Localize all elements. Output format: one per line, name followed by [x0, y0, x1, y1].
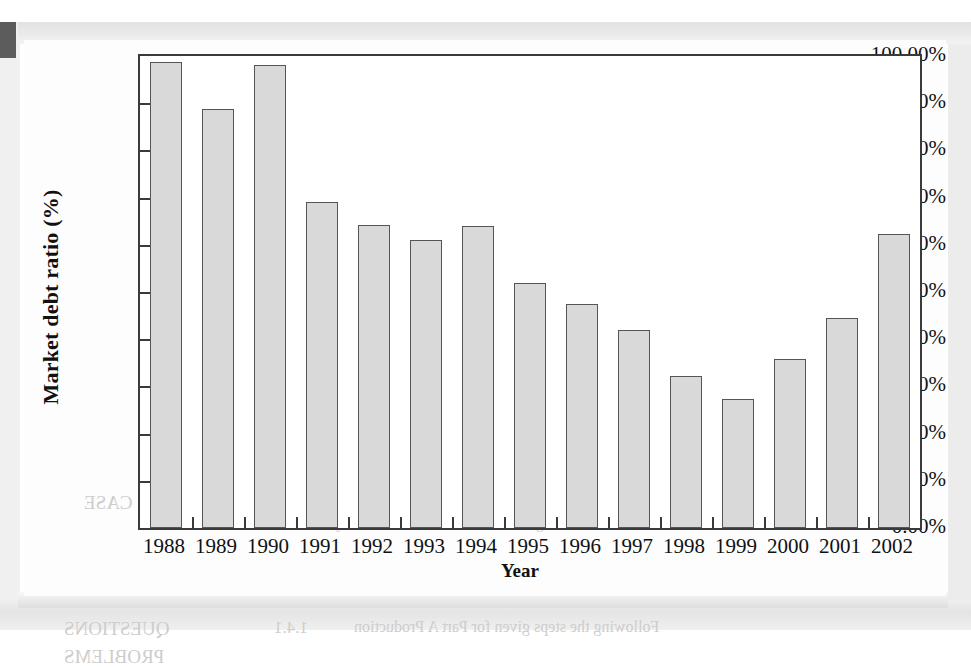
bar — [462, 226, 494, 528]
bar — [826, 318, 858, 528]
x-axis-tick-mark — [660, 517, 662, 528]
bar — [618, 330, 650, 528]
x-axis-tick-mark — [608, 517, 610, 528]
x-axis-tick-mark — [400, 517, 402, 528]
bleed-text: PROBLEMS — [64, 646, 164, 667]
x-axis-title: Year — [120, 560, 920, 582]
plot-area — [138, 54, 922, 530]
bar — [670, 376, 702, 528]
x-axis-tick-mark — [296, 517, 298, 528]
bar — [410, 240, 442, 528]
scan-edge-right — [948, 22, 971, 612]
bar — [202, 109, 234, 528]
bar — [774, 359, 806, 528]
bar — [514, 283, 546, 528]
bar — [722, 399, 754, 528]
bar — [566, 304, 598, 528]
bar — [150, 62, 182, 528]
x-axis-tick-label: 2002 — [857, 534, 927, 559]
x-axis-tick-mark — [348, 517, 350, 528]
bar — [306, 202, 338, 528]
y-axis-title: Market debt ratio (%) — [38, 82, 64, 512]
bar — [358, 225, 390, 528]
x-axis-tick-mark — [764, 517, 766, 528]
x-axis-tick-mark — [504, 517, 506, 528]
bar-chart: Market debt ratio (%) 0.00%10.00%20.00%3… — [24, 40, 946, 596]
x-axis-tick-mark — [244, 517, 246, 528]
bar — [254, 65, 286, 528]
figure-field: 5. In part (b), the market's been ratio … — [24, 40, 946, 596]
x-axis-tick-mark — [712, 517, 714, 528]
scan-corner-mark — [0, 22, 16, 58]
x-axis-tick-mark — [556, 517, 558, 528]
x-axis-tick-mark — [868, 517, 870, 528]
x-axis-tick-mark — [192, 517, 194, 528]
x-axis-tick-mark — [452, 517, 454, 528]
bar — [878, 234, 910, 528]
scan-edge-left — [0, 22, 20, 612]
x-axis-tick-mark — [816, 517, 818, 528]
